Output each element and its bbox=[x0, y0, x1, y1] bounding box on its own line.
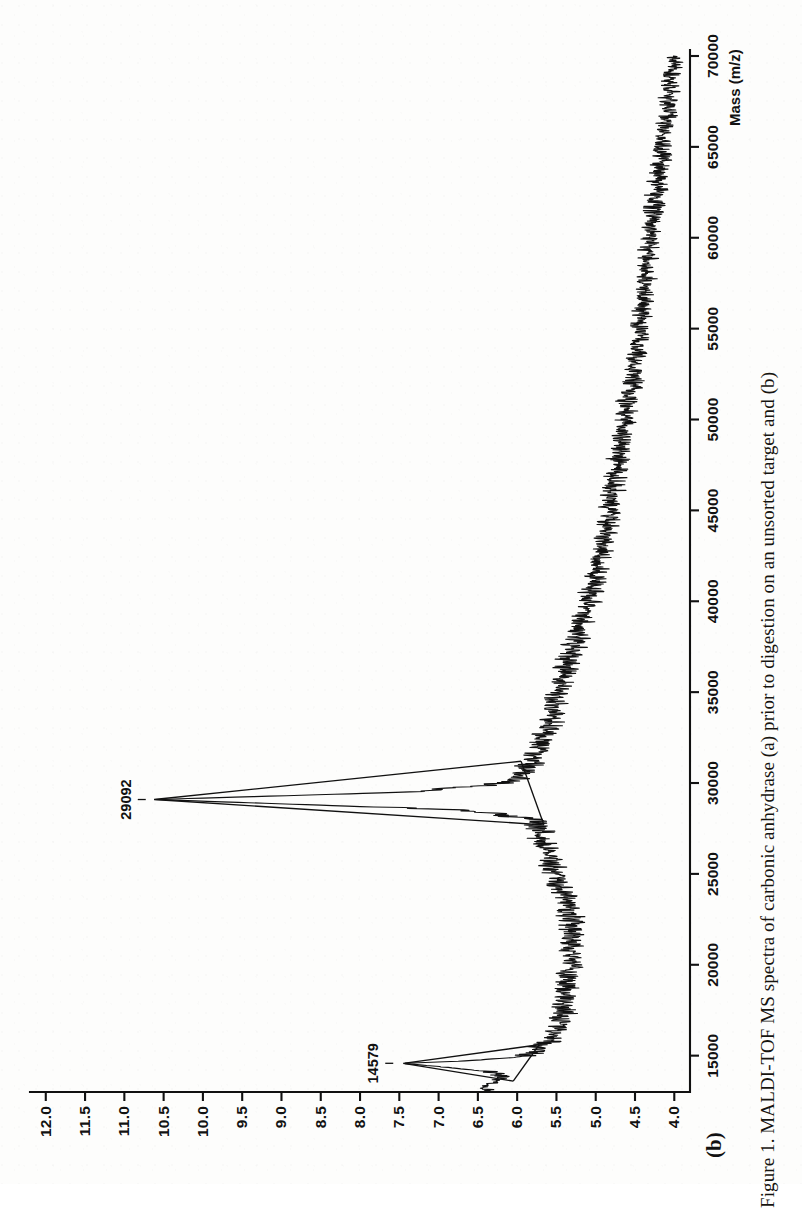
peak-baselines bbox=[138, 761, 544, 1081]
y-tick-label: 7.5 bbox=[390, 1106, 408, 1128]
x-tick-label: 45000 bbox=[704, 488, 722, 532]
peak-label-14579: 14579 bbox=[365, 1043, 381, 1083]
y-tick-label: 6.5 bbox=[469, 1106, 487, 1128]
x-tick-label: 20000 bbox=[704, 943, 722, 987]
y-tick-label: 10.5 bbox=[155, 1106, 173, 1137]
y-tick-label: 11.0 bbox=[115, 1106, 133, 1136]
x-tick-label: 15000 bbox=[704, 1034, 722, 1078]
y-tick-label: 4.5 bbox=[626, 1106, 644, 1128]
spectrum-trace bbox=[155, 56, 683, 1092]
y-tick-label: 11.5 bbox=[76, 1106, 94, 1136]
x-tick-label: 40000 bbox=[704, 579, 722, 623]
y-tick-label: 5.5 bbox=[547, 1106, 565, 1128]
x-tick-label: 30000 bbox=[704, 761, 722, 805]
y-tick-label: 4.0 bbox=[665, 1106, 683, 1128]
x-tick-label: 55000 bbox=[704, 307, 722, 351]
figure-caption: Figure 1. MALDI-TOF MS spectra of carbon… bbox=[757, 0, 779, 1208]
x-tick-label: 50000 bbox=[704, 397, 722, 441]
x-axis-title: Mass (m/z) bbox=[726, 49, 743, 126]
y-tick-label: 12.0 bbox=[37, 1106, 55, 1137]
y-tick-label: 6.0 bbox=[508, 1106, 526, 1128]
y-tick-label: 8.0 bbox=[351, 1106, 369, 1128]
y-tick-label: 9.0 bbox=[272, 1106, 290, 1128]
axes bbox=[30, 50, 699, 1101]
y-tick-label: 5.0 bbox=[587, 1106, 605, 1128]
peak-label-29092: 29092 bbox=[118, 779, 134, 819]
y-tick-label: 7.0 bbox=[430, 1106, 448, 1128]
y-tick-label: 9.5 bbox=[233, 1106, 251, 1128]
x-tick-label: 35000 bbox=[704, 670, 722, 714]
panel-label: (b) bbox=[702, 1132, 727, 1158]
x-tick-label: 70000 bbox=[704, 34, 722, 78]
y-tick-label: 8.5 bbox=[312, 1106, 330, 1128]
x-tick-label: 25000 bbox=[704, 852, 722, 896]
x-tick-label: 60000 bbox=[704, 216, 722, 260]
x-tick-label: 65000 bbox=[704, 125, 722, 169]
y-tick-label: 10.0 bbox=[194, 1106, 212, 1137]
